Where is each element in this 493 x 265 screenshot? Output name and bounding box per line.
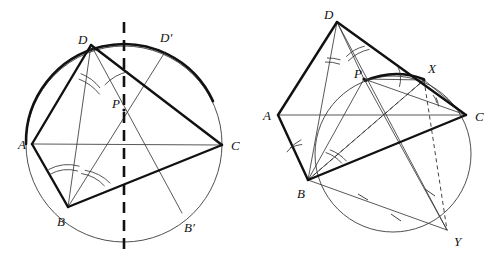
right-label-X: X bbox=[427, 61, 437, 76]
right-segment-AB bbox=[278, 115, 308, 180]
right-segment-BC bbox=[308, 115, 466, 180]
left-label-B-prime: B′ bbox=[184, 220, 195, 235]
left-angle-arc-at-B-DBP-outer bbox=[85, 170, 111, 183]
right-tick-on-BY bbox=[391, 214, 401, 221]
right-angle-arc-at-D-ADB bbox=[327, 58, 341, 60]
geometry-figure: A B C D P D′ B′ bbox=[0, 0, 493, 265]
left-segment-AD bbox=[32, 45, 91, 144]
right-segment-BY bbox=[308, 180, 447, 230]
right-segment-BP bbox=[308, 79, 364, 180]
left-angle-arc-at-D-ADB-inner bbox=[79, 79, 100, 94]
right-segment-PY bbox=[364, 79, 447, 230]
right-label-A: A bbox=[262, 108, 271, 123]
left-segment-DB bbox=[68, 45, 91, 207]
left-angle-arc-at-B-ABD-outer bbox=[48, 165, 79, 170]
left-label-D-prime: D′ bbox=[159, 30, 172, 45]
left-segment-DC bbox=[91, 45, 222, 145]
right-tick-on-BY-second bbox=[358, 194, 368, 200]
left-vertex-dot-P bbox=[122, 108, 125, 111]
left-label-P: P bbox=[111, 96, 120, 111]
left-segment-B-to-Dprime bbox=[68, 52, 165, 207]
right-label-D: D bbox=[323, 7, 334, 22]
right-angle-arc-at-D-ADB-outer bbox=[325, 62, 340, 64]
right-vertex-dot-X bbox=[423, 79, 426, 82]
right-panel: A B C D P X Y bbox=[262, 7, 484, 249]
left-panel: A B C D P D′ B′ bbox=[17, 22, 240, 252]
right-vertex-dot-P bbox=[362, 77, 365, 80]
left-label-A: A bbox=[17, 137, 26, 152]
left-label-B: B bbox=[57, 214, 65, 229]
left-heavy-arc-A-to-C bbox=[26, 44, 213, 144]
right-label-C: C bbox=[475, 109, 484, 124]
right-label-Y: Y bbox=[454, 234, 463, 249]
left-angle-arc-at-B-ABD bbox=[50, 170, 78, 175]
left-segment-AB bbox=[32, 144, 68, 207]
left-segment-AC bbox=[32, 144, 222, 145]
right-angle-arc-at-X-DXP bbox=[398, 67, 401, 87]
right-segment-DY bbox=[337, 22, 447, 230]
left-segment-D-to-Bprime bbox=[91, 45, 182, 213]
right-label-P: P bbox=[353, 66, 362, 81]
right-segment-PC bbox=[364, 79, 466, 115]
geometry-canvas: A B C D P D′ B′ bbox=[0, 0, 493, 265]
left-label-D: D bbox=[77, 32, 88, 47]
left-label-C: C bbox=[231, 138, 240, 153]
right-label-B: B bbox=[297, 186, 305, 201]
